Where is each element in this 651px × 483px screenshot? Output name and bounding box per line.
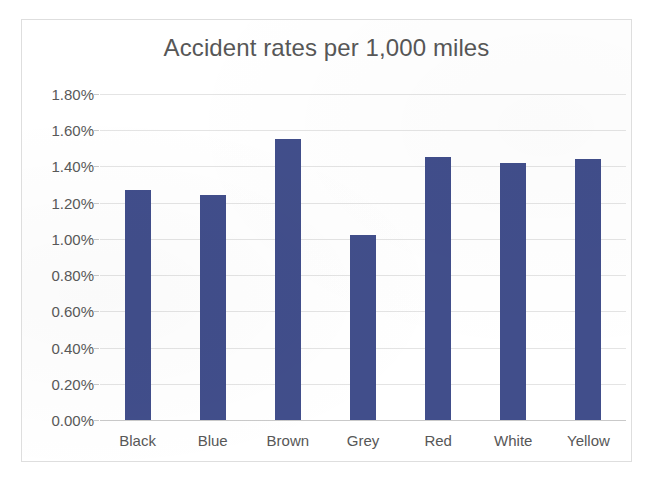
y-axis: 0.00%0.20%0.40%0.60%0.80%1.00%1.20%1.40%…	[22, 94, 94, 420]
plot-area	[100, 94, 626, 420]
bar-red[interactable]	[425, 157, 451, 420]
bar-brown[interactable]	[275, 139, 301, 420]
y-axis-tick-mark	[94, 311, 99, 312]
gridline	[100, 166, 626, 167]
y-axis-tick-label: 1.20%	[28, 194, 94, 211]
y-axis-tick-mark	[94, 203, 99, 204]
bar-white[interactable]	[500, 163, 526, 420]
y-axis-tick-label: 0.00%	[28, 412, 94, 429]
y-axis-tick-label: 1.60%	[28, 122, 94, 139]
y-axis-tick-label: 0.40%	[28, 339, 94, 356]
x-axis-label-blue: Blue	[198, 432, 228, 449]
chart-title: Accident rates per 1,000 miles	[22, 34, 631, 62]
x-axis-label-brown: Brown	[267, 432, 310, 449]
y-axis-tick-label: 1.40%	[28, 158, 94, 175]
y-axis-tick-label: 0.20%	[28, 375, 94, 392]
y-axis-tick-mark	[94, 94, 99, 95]
y-axis-tick-label: 1.80%	[28, 86, 94, 103]
y-axis-tick-mark	[94, 348, 99, 349]
y-axis-tick-mark	[94, 166, 99, 167]
y-axis-tick-label: 0.80%	[28, 267, 94, 284]
x-axis-label-yellow: Yellow	[567, 432, 610, 449]
x-axis-label-red: Red	[424, 432, 452, 449]
x-axis-label-black: Black	[119, 432, 156, 449]
bar-blue[interactable]	[200, 195, 226, 420]
bar-black[interactable]	[125, 190, 151, 420]
x-axis-label-grey: Grey	[347, 432, 380, 449]
x-axis-label-white: White	[494, 432, 532, 449]
y-axis-tick-mark	[94, 275, 99, 276]
axis-baseline	[100, 420, 626, 421]
y-axis-tick-label: 1.00%	[28, 230, 94, 247]
y-axis-tick-mark	[94, 130, 99, 131]
y-axis-tick-label: 0.60%	[28, 303, 94, 320]
bar-grey[interactable]	[350, 235, 376, 420]
y-axis-tick-mark	[94, 420, 99, 421]
y-axis-tick-mark	[94, 239, 99, 240]
gridline	[100, 130, 626, 131]
chart-container: Accident rates per 1,000 miles 0.00%0.20…	[21, 19, 632, 462]
bar-yellow[interactable]	[575, 159, 601, 420]
y-axis-tick-mark	[94, 384, 99, 385]
gridline	[100, 94, 626, 95]
gridline	[100, 203, 626, 204]
